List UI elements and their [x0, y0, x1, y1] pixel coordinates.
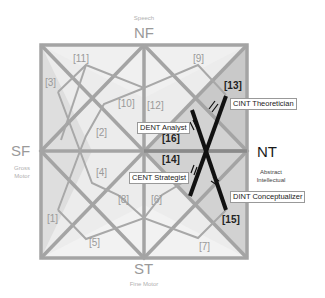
st-label: ST — [134, 260, 153, 277]
nt-caption-line1: Abstract — [250, 168, 292, 176]
sf-label: SF — [11, 142, 30, 159]
st-caption: Fine Motor — [124, 280, 164, 288]
region-3: [3] — [45, 77, 56, 88]
region-1: [1] — [47, 213, 58, 224]
region-8: [8] — [118, 194, 129, 205]
region-7: [7] — [199, 241, 210, 252]
region-12: [12] — [147, 100, 164, 111]
region-5: [5] — [89, 237, 100, 248]
nf-caption: Speech — [130, 14, 158, 22]
region-9: [9] — [193, 53, 204, 64]
callout-cent-strategist: CENT Strategist — [129, 172, 189, 184]
region-6: [6] — [151, 194, 162, 205]
nt-caption-line2: Intellectual — [250, 176, 292, 184]
region-15: [15] — [222, 214, 240, 225]
region-10: [10] — [118, 98, 135, 109]
nt-label: NT — [257, 143, 277, 160]
region-14: [14] — [162, 154, 180, 165]
callout-dent-analyst: DENT Analyst — [137, 122, 190, 134]
callout-dint-conceptualizer: DINT Conceptualizer — [230, 191, 305, 203]
sf-caption-line2: Motor — [8, 172, 36, 180]
sf-caption: Gross Motor — [8, 164, 36, 180]
region-2: [2] — [96, 127, 107, 138]
region-11: [11] — [73, 53, 89, 64]
nf-label: NF — [134, 24, 154, 41]
nt-caption: Abstract Intellectual — [250, 168, 292, 184]
region-16: [16] — [162, 133, 180, 144]
region-4: [4] — [96, 167, 107, 178]
callout-cint-theoretician: CINT Theoretician — [230, 98, 297, 110]
region-13: [13] — [224, 80, 242, 91]
sf-caption-line1: Gross — [8, 164, 36, 172]
